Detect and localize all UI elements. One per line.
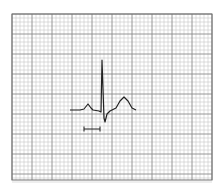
ecg-grid — [12, 14, 212, 182]
ecg-diagram — [0, 0, 224, 195]
